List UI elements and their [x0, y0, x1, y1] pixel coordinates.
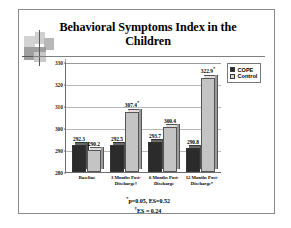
bar-group-3-months: 292.5 307.4* — [110, 63, 144, 172]
y-tick-label-310: 310 — [55, 104, 63, 110]
significance-star-12-months: * — [213, 66, 215, 71]
chart-legend: COPE Control — [227, 63, 261, 83]
legend-label-cope: COPE — [238, 67, 254, 73]
footnote-line-1: *p=0.05, ES=0.52 — [43, 195, 253, 205]
footnote-line-2: †ES = 0.24 — [43, 205, 253, 214]
bar-label-control-baseline: 290.2 — [88, 141, 100, 147]
bar-control-6-months[interactable]: 300.4 — [163, 127, 177, 172]
legend-item-control[interactable]: Control — [230, 73, 257, 79]
bar-control-3-months[interactable]: 307.4* — [125, 112, 139, 172]
y-tick-label-300: 300 — [55, 126, 63, 132]
x-axis-label-3-months: 3 Months Post- Discharge† — [105, 175, 147, 187]
title-divider — [33, 56, 265, 57]
bar-group-6-months: 293.7 300.4 — [148, 63, 182, 172]
legend-swatch-cope-icon — [230, 67, 235, 72]
y-tick-label-320: 320 — [55, 82, 63, 88]
bar-cope-3-months[interactable]: 292.5 — [110, 145, 124, 173]
bar-cope-12-months[interactable]: 290.8 — [186, 148, 200, 172]
y-tick-label-280: 280 — [55, 170, 63, 176]
bar-control-12-months[interactable]: 322.9* — [201, 78, 215, 172]
bar-group-12-months: 290.8 322.9* — [186, 63, 220, 172]
bar-label-cope-baseline: 292.3 — [73, 136, 85, 142]
footnotes: *p=0.05, ES=0.52 †ES = 0.24 — [43, 195, 253, 214]
bar-label-cope-6-months: 293.7 — [149, 133, 161, 139]
y-tick-label-290: 290 — [55, 148, 63, 154]
bar-label-cope-3-months: 292.5 — [111, 136, 123, 142]
legend-item-cope[interactable]: COPE — [230, 67, 257, 73]
x-axis-label-6-months: 6 Months Post- Discharge — [143, 175, 185, 187]
legend-swatch-control-icon — [230, 74, 235, 79]
bar-control-baseline[interactable]: 290.2 — [87, 150, 101, 172]
bar-group-baseline: 292.3 290.2 — [72, 63, 106, 172]
bar-label-cope-12-months: 290.8 — [187, 139, 199, 145]
legend-label-control: Control — [238, 73, 258, 79]
bar-cope-baseline[interactable]: 292.3 — [72, 145, 86, 172]
slide-title-line-2: Children — [43, 35, 253, 49]
x-axis-label-baseline: Baseline — [67, 175, 107, 181]
plot-area: 330 320 310 300 290 280 292.3 — [65, 63, 221, 173]
slide-title-line-1: Behavioral Symptoms Index in the — [43, 21, 253, 35]
bar-chart: 330 320 310 300 290 280 292.3 — [43, 59, 271, 207]
slide-title: Behavioral Symptoms Index in the Childre… — [43, 21, 253, 48]
x-axis-label-12-months: 12 Months Post- Discharge* — [181, 175, 223, 187]
slide-frame: Behavioral Symptoms Index in the Childre… — [18, 9, 275, 214]
bar-label-control-12-months: 322.9* — [201, 66, 215, 74]
y-tick-label-330: 330 — [55, 60, 63, 66]
bar-label-control-6-months: 300.4 — [164, 118, 176, 124]
bar-cope-6-months[interactable]: 293.7 — [148, 142, 162, 172]
bar-label-control-3-months: 307.4* — [125, 100, 139, 108]
significance-star-3-months: * — [137, 100, 139, 105]
